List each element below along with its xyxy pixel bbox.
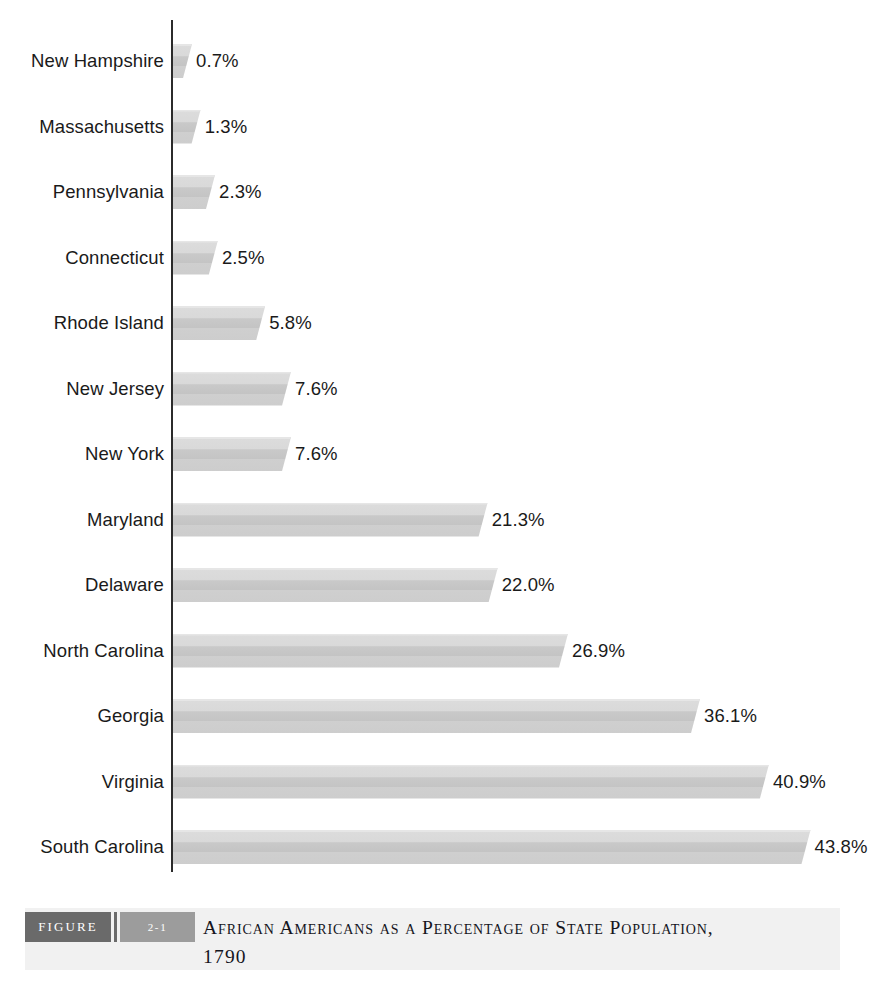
bar xyxy=(173,241,218,275)
bar-value-label: 36.1% xyxy=(704,699,757,733)
category-label: New Jersey xyxy=(0,372,164,406)
bar-top-highlight xyxy=(173,44,192,46)
bar-value-label: 2.3% xyxy=(219,175,262,209)
bar-row: Delaware22.0% xyxy=(0,568,886,602)
bar-face xyxy=(173,175,215,209)
bar xyxy=(173,830,811,864)
bar-top-highlight xyxy=(173,175,215,177)
bar-value-label: 7.6% xyxy=(295,372,338,406)
category-label: Rhode Island xyxy=(0,306,164,340)
figure-caption: FIGURE 2-1 African Americans as a Percen… xyxy=(25,908,840,970)
bar-face xyxy=(173,503,488,537)
bar xyxy=(173,110,201,144)
caption-title-line2: 1790 xyxy=(203,942,833,971)
category-label: Connecticut xyxy=(0,241,164,275)
bar-row: Maryland21.3% xyxy=(0,503,886,537)
bar-row: New York7.6% xyxy=(0,437,886,471)
category-label: North Carolina xyxy=(0,634,164,668)
caption-figure-number: 2-1 xyxy=(120,912,195,942)
bar-face xyxy=(173,241,218,275)
bar-top-highlight xyxy=(173,372,291,374)
category-label: Pennsylvania xyxy=(0,175,164,209)
bar-row: South Carolina43.8% xyxy=(0,830,886,864)
bar-top-highlight xyxy=(173,110,201,112)
bar-row: Pennsylvania2.3% xyxy=(0,175,886,209)
bar-face xyxy=(173,699,700,733)
bar-top-highlight xyxy=(173,568,498,570)
category-label: South Carolina xyxy=(0,830,164,864)
bar-row: Georgia36.1% xyxy=(0,699,886,733)
category-label: New Hampshire xyxy=(0,44,164,78)
bar-face xyxy=(173,765,769,799)
bar-top-highlight xyxy=(173,765,769,767)
bar xyxy=(173,765,769,799)
bar-face xyxy=(173,372,291,406)
bar xyxy=(173,175,215,209)
bar-face xyxy=(173,830,811,864)
bar-top-highlight xyxy=(173,241,218,243)
bar xyxy=(173,568,498,602)
bar xyxy=(173,503,488,537)
caption-title: African Americans as a Percentage of Sta… xyxy=(203,913,833,971)
bar-value-label: 21.3% xyxy=(492,503,545,537)
bar-face xyxy=(173,568,498,602)
bar-row: North Carolina26.9% xyxy=(0,634,886,668)
bar-row: Massachusetts1.3% xyxy=(0,110,886,144)
bar-value-label: 0.7% xyxy=(196,44,239,78)
bar-top-highlight xyxy=(173,634,568,636)
caption-title-line1: African Americans as a Percentage of Sta… xyxy=(203,917,714,938)
bar xyxy=(173,306,265,340)
category-label: Delaware xyxy=(0,568,164,602)
bar-value-label: 2.5% xyxy=(222,241,265,275)
bar xyxy=(173,634,568,668)
bar-row: Rhode Island5.8% xyxy=(0,306,886,340)
bar-top-highlight xyxy=(173,306,265,308)
bar-face xyxy=(173,110,201,144)
bar-row: New Jersey7.6% xyxy=(0,372,886,406)
bar-face xyxy=(173,306,265,340)
category-label: New York xyxy=(0,437,164,471)
bar-top-highlight xyxy=(173,699,700,701)
bar-value-label: 22.0% xyxy=(502,568,555,602)
bar-face xyxy=(173,634,568,668)
bar-value-label: 5.8% xyxy=(269,306,312,340)
bar-face xyxy=(173,44,192,78)
bar xyxy=(173,437,291,471)
bar-row: New Hampshire0.7% xyxy=(0,44,886,78)
bar-value-label: 26.9% xyxy=(572,634,625,668)
bar xyxy=(173,699,700,733)
bar xyxy=(173,372,291,406)
caption-divider xyxy=(114,912,117,942)
category-label: Maryland xyxy=(0,503,164,537)
bar-value-label: 40.9% xyxy=(773,765,826,799)
bar-face xyxy=(173,437,291,471)
bar-top-highlight xyxy=(173,503,488,505)
bar-value-label: 1.3% xyxy=(205,110,248,144)
figure-african-americans-percentage-1790: New Hampshire0.7%Massachusetts1.3%Pennsy… xyxy=(0,0,886,992)
bar-row: Connecticut2.5% xyxy=(0,241,886,275)
category-label: Virginia xyxy=(0,765,164,799)
bar-value-label: 43.8% xyxy=(815,830,868,864)
category-label: Georgia xyxy=(0,699,164,733)
caption-figure-label: FIGURE xyxy=(25,912,111,942)
bar-value-label: 7.6% xyxy=(295,437,338,471)
bar-top-highlight xyxy=(173,830,811,832)
bar-top-highlight xyxy=(173,437,291,439)
bar-chart-plot-area: New Hampshire0.7%Massachusetts1.3%Pennsy… xyxy=(0,0,886,886)
bar-row: Virginia40.9% xyxy=(0,765,886,799)
category-label: Massachusetts xyxy=(0,110,164,144)
bar xyxy=(173,44,192,78)
